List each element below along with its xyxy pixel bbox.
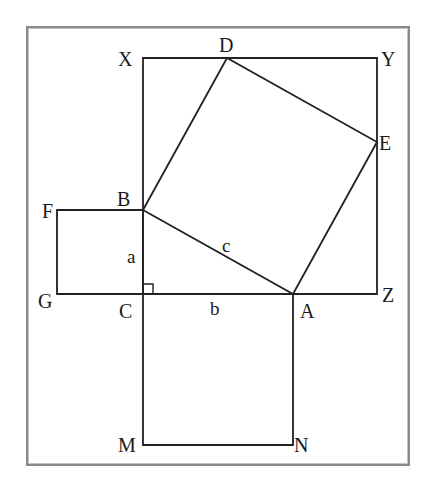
label-E: E (379, 132, 391, 154)
label-Z: Z (382, 284, 394, 306)
label-F: F (42, 200, 53, 222)
right-angle-marker (143, 284, 153, 294)
outer-frame (27, 27, 409, 465)
side-label-b: b (210, 298, 220, 319)
label-X: X (118, 48, 133, 70)
label-A: A (300, 300, 315, 322)
label-Y: Y (381, 48, 395, 70)
label-C: C (119, 300, 132, 322)
enclosing-square-xyz (143, 58, 377, 294)
side-label-c: c (222, 235, 230, 256)
pythagorean-diagram: X D Y E F B G C A Z M N a b c (0, 0, 427, 488)
label-M: M (118, 434, 136, 456)
side-label-a: a (127, 246, 136, 267)
label-G: G (38, 290, 52, 312)
square-on-c (143, 58, 377, 294)
label-D: D (219, 34, 233, 56)
outer-frame-inner-edge (29, 29, 408, 464)
label-N: N (294, 434, 308, 456)
label-B: B (117, 188, 130, 210)
